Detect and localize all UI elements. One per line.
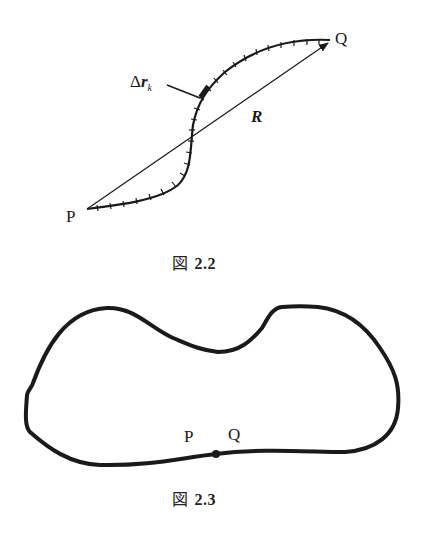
figure-2-3: P Q 図2.3 bbox=[0, 280, 424, 535]
label-delta-rk: Δrk bbox=[130, 73, 152, 90]
leader-line bbox=[167, 85, 200, 98]
figure-caption: 図2.3 bbox=[172, 492, 216, 508]
label-Q: Q bbox=[228, 426, 240, 443]
delta-symbol: Δ bbox=[130, 72, 141, 91]
caption-number: 2.3 bbox=[195, 491, 217, 508]
vector-R bbox=[87, 43, 328, 209]
figure-caption: 図2.2 bbox=[172, 256, 216, 272]
caption-prefix: 図 bbox=[172, 491, 189, 508]
label-P: P bbox=[184, 428, 193, 445]
closed-loop-path bbox=[26, 306, 399, 465]
k-subscript: k bbox=[148, 82, 152, 93]
point-PQ-dot bbox=[212, 450, 220, 458]
label-Q: Q bbox=[335, 30, 347, 47]
caption-number: 2.2 bbox=[195, 255, 217, 272]
label-P: P bbox=[66, 208, 75, 225]
caption-prefix: 図 bbox=[172, 255, 189, 272]
figure-2-2: P Q R Δrk 図2.2 bbox=[0, 0, 424, 280]
r-symbol: r bbox=[141, 72, 148, 91]
label-R: R bbox=[251, 108, 262, 125]
path-diagram bbox=[0, 0, 424, 280]
